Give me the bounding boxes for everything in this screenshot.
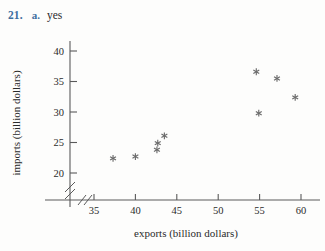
y-tick-label-40: 40 <box>54 46 65 57</box>
x-tick-label-35: 35 <box>89 205 100 216</box>
scatter-plot-svg: 2025303540 354045505560 exports (billion… <box>0 0 325 251</box>
data-point <box>256 110 262 117</box>
x-tick-label-45: 45 <box>172 205 183 216</box>
data-point <box>110 155 116 162</box>
x-axis-ticks: 354045505560 <box>89 194 307 216</box>
data-point <box>161 132 167 139</box>
scatter-plot: 2025303540 354045505560 exports (billion… <box>0 0 325 251</box>
y-axis-title: imports (billion dollars) <box>10 70 23 175</box>
y-tick-label-35: 35 <box>54 76 65 87</box>
y-axis-ticks: 2025303540 <box>54 46 78 179</box>
x-tick-label-55: 55 <box>254 205 265 216</box>
data-points-layer <box>110 68 298 161</box>
data-point <box>274 75 280 82</box>
data-point <box>292 94 298 101</box>
x-tick-label-60: 60 <box>296 205 307 216</box>
axis-break-marks <box>65 182 92 205</box>
y-tick-label-25: 25 <box>54 137 65 148</box>
data-point <box>253 68 259 75</box>
y-tick-label-20: 20 <box>54 168 65 179</box>
data-point <box>132 153 138 160</box>
x-tick-label-50: 50 <box>213 205 224 216</box>
page-canvas: 21. a. yes 2025303540 354045505560 <box>0 0 325 251</box>
x-tick-label-40: 40 <box>130 205 141 216</box>
x-axis-title: exports (billion dollars) <box>134 227 238 240</box>
data-point <box>154 146 160 153</box>
data-point <box>155 140 161 147</box>
axes-group <box>45 41 320 207</box>
y-tick-label-30: 30 <box>54 107 65 118</box>
